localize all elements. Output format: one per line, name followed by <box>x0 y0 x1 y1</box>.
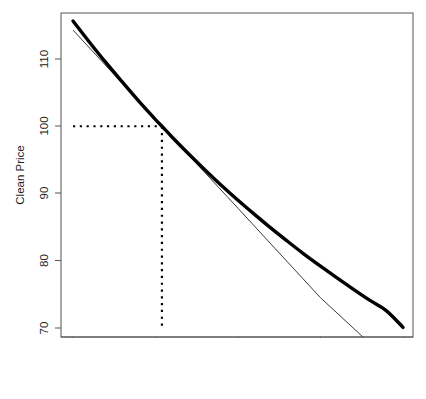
below-frame-mask <box>61 338 413 399</box>
data-series <box>73 21 403 337</box>
y-axis-ticks <box>55 59 61 328</box>
y-axis-title: Clean Price <box>14 145 26 204</box>
y-tick-label-100: 100 <box>38 116 50 135</box>
y-tick-label-80: 80 <box>38 254 50 267</box>
plot-frame <box>61 13 413 337</box>
price-yield-curve <box>73 21 403 327</box>
y-axis-tick-labels: 70 80 90 100 110 <box>38 50 50 335</box>
price-yield-chart: 70 80 90 100 110 0 5 10 15 20 Yield to M… <box>0 0 426 399</box>
y-tick-label-70: 70 <box>38 322 50 335</box>
plot-canvas: 70 80 90 100 110 0 5 10 15 20 Yield to M… <box>0 0 426 399</box>
guide-lines <box>73 126 162 328</box>
y-tick-label-90: 90 <box>38 187 50 200</box>
y-tick-label-110: 110 <box>38 50 50 68</box>
